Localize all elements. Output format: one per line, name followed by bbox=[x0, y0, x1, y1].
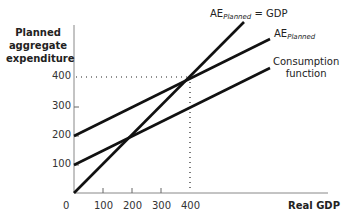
line-ae-planned bbox=[74, 39, 270, 136]
y-axis-label-line2: aggregate bbox=[6, 39, 70, 52]
label-ae-equals-gdp: AEPlanned = GDP bbox=[210, 8, 287, 23]
y-tick-label-400: 400 bbox=[52, 70, 71, 81]
label-ae-planned-main: AE bbox=[274, 28, 287, 39]
y-tick-label-300: 300 bbox=[52, 100, 71, 111]
x-tick-label-0: 0 bbox=[63, 200, 69, 211]
label-ae-equals-gdp-sub: Planned bbox=[223, 13, 251, 21]
y-tick-label-100: 100 bbox=[52, 158, 71, 169]
x-tick-label-400: 400 bbox=[181, 200, 200, 211]
x-tick-label-200: 200 bbox=[123, 200, 142, 211]
x-tick-label-100: 100 bbox=[94, 200, 113, 211]
chart: Planned aggregate expenditure 400 300 20… bbox=[0, 0, 350, 222]
label-ae-planned-sub: Planned bbox=[287, 33, 315, 41]
label-consumption-line1: Consumption bbox=[273, 56, 339, 68]
label-consumption-line2: function bbox=[273, 68, 339, 80]
label-consumption-function: Consumption function bbox=[273, 56, 339, 80]
x-axis-label: Real GDP bbox=[288, 200, 340, 211]
line-ae-equals-gdp bbox=[74, 22, 244, 193]
y-tick-label-200: 200 bbox=[52, 129, 71, 140]
x-tick-label-300: 300 bbox=[152, 200, 171, 211]
label-ae-equals-gdp-suffix: = GDP bbox=[251, 8, 287, 19]
y-axis-label: Planned aggregate expenditure bbox=[6, 26, 70, 65]
y-axis-label-line1: Planned bbox=[6, 26, 70, 39]
y-axis-label-line3: expenditure bbox=[6, 52, 70, 65]
line-consumption-function bbox=[74, 68, 270, 165]
label-ae-planned: AEPlanned bbox=[274, 28, 315, 43]
label-ae-equals-gdp-main: AE bbox=[210, 8, 223, 19]
